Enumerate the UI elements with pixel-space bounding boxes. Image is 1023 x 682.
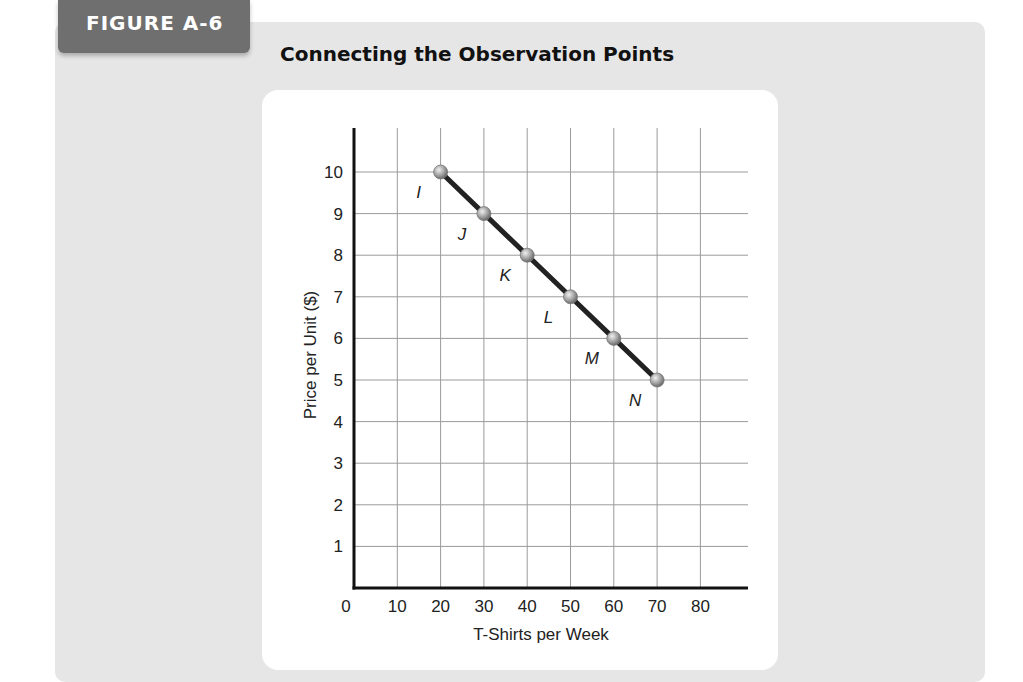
y-tick-label: 7 [334, 288, 343, 307]
y-tick-label: 5 [334, 371, 343, 390]
point-label-k: K [500, 266, 512, 285]
x-tick-label: 30 [474, 597, 493, 616]
x-tick-label: 0 [341, 597, 350, 616]
data-point-n [650, 373, 664, 387]
grid-lines [354, 128, 748, 588]
demand-line [441, 172, 657, 380]
y-tick-label: 2 [334, 496, 343, 515]
x-tick-label: 70 [648, 597, 667, 616]
y-tick-label: 6 [334, 329, 343, 348]
x-tick-label: 80 [691, 597, 710, 616]
y-axis-label: Price per Unit ($) [301, 291, 320, 419]
data-point-k [520, 248, 534, 262]
axes [353, 128, 749, 590]
point-label-m: M [585, 349, 600, 368]
x-tick-label: 60 [604, 597, 623, 616]
x-tick-label: 20 [431, 597, 450, 616]
point-label-i: I [416, 183, 421, 202]
tick-labels: 0102030405060708012345678910 [324, 163, 710, 616]
x-tick-label: 40 [518, 597, 537, 616]
y-tick-label: 3 [334, 454, 343, 473]
y-tick-label: 10 [324, 163, 343, 182]
data-point-i [434, 165, 448, 179]
point-label-l: L [544, 308, 553, 327]
y-tick-label: 9 [334, 205, 343, 224]
y-tick-label: 1 [334, 537, 343, 556]
point-label-n: N [629, 391, 642, 410]
point-label-j: J [457, 225, 467, 244]
y-tick-label: 8 [334, 246, 343, 265]
data-series: IJKLMN [416, 165, 664, 410]
data-point-m [607, 331, 621, 345]
x-tick-label: 50 [561, 597, 580, 616]
x-tick-label: 10 [388, 597, 407, 616]
data-point-l [564, 290, 578, 304]
data-point-j [477, 207, 491, 221]
y-tick-label: 4 [334, 413, 343, 432]
x-axis-label: T-Shirts per Week [473, 625, 609, 644]
